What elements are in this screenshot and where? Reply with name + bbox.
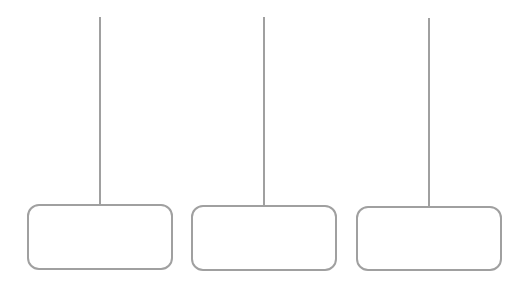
connector-line-2 [263, 17, 265, 206]
node-box-2 [191, 205, 337, 271]
connector-line-3 [428, 18, 430, 207]
node-box-1 [27, 204, 173, 270]
connector-line-1 [99, 17, 101, 205]
node-box-3 [356, 206, 502, 271]
